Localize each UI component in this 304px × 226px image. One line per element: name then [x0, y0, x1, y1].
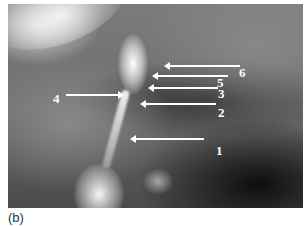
- figure-caption: (b): [8, 210, 24, 225]
- arrow-6-icon: [170, 65, 240, 67]
- bright-spot: [143, 169, 173, 194]
- arrow-2-icon: [146, 103, 216, 105]
- arrow-3-icon: [154, 87, 218, 89]
- central-glare: [118, 34, 148, 94]
- figure-photo: 6 5 3 2 1 4: [8, 4, 303, 208]
- arrow-4-icon: [66, 94, 118, 96]
- label-3: 3: [218, 87, 225, 100]
- label-1: 1: [216, 144, 223, 157]
- arrow-1-icon: [136, 138, 204, 140]
- label-6: 6: [239, 66, 246, 79]
- label-4: 4: [53, 92, 60, 105]
- label-2: 2: [218, 106, 225, 119]
